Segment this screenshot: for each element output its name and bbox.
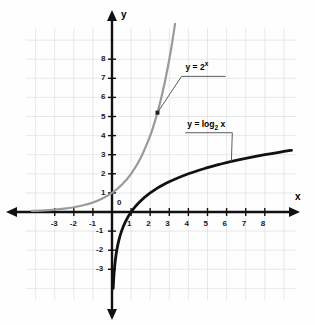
y-tick-label: 7 <box>101 74 105 82</box>
y-tick-label: 8 <box>101 55 105 63</box>
x-axis-label: x <box>295 192 301 202</box>
x-tick-label: 4 <box>184 220 188 228</box>
y-tick-label: 1 <box>101 189 105 197</box>
x-tick-label: -1 <box>89 220 96 228</box>
data-curves <box>32 24 292 289</box>
x-tick-label: -3 <box>51 220 58 228</box>
curve-label-exponential: y = 2x <box>186 63 209 72</box>
x-tick-label: 2 <box>146 220 150 228</box>
x-tick-label: 6 <box>223 220 227 228</box>
log-base-2: 2 <box>214 123 218 130</box>
y-tick-label: 2 <box>101 170 105 178</box>
y-tick-label: 4 <box>101 132 105 140</box>
y-tick-label: 5 <box>101 113 105 121</box>
x-tick-label: -2 <box>70 220 77 228</box>
x-tick-label: 8 <box>261 220 265 228</box>
axis-ticks <box>55 59 265 269</box>
origin-label: 0 <box>117 199 121 207</box>
axis-lines <box>6 10 300 320</box>
y-axis-label: y <box>121 10 127 20</box>
y-tick-label: -1 <box>96 227 103 235</box>
x-tick-label: 1 <box>127 220 131 228</box>
y-tick-label: 6 <box>101 93 105 101</box>
x-tick-label: 7 <box>242 220 246 228</box>
x-tick-label: 5 <box>204 220 208 228</box>
exponent-x: x <box>205 61 209 68</box>
y-tick-label: -2 <box>96 246 103 254</box>
curve-label-logarithmic: y = log2 x <box>187 120 225 129</box>
chart-canvas: -3-2-112345678-3-2-112345678 0 x y y = 2… <box>0 0 315 325</box>
x-tick-label: 3 <box>165 220 169 228</box>
plot-area <box>0 0 315 325</box>
y-tick-label: -3 <box>96 265 103 273</box>
y-tick-label: 3 <box>101 151 105 159</box>
gridlines <box>26 28 296 300</box>
